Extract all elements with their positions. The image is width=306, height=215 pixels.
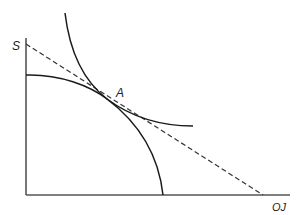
price-line <box>26 44 263 195</box>
x-axis-label: OJ <box>272 201 287 213</box>
y-axis-label: S <box>12 39 20 53</box>
diagram-canvas: S A OJ <box>0 0 306 215</box>
tangency-point-label: A <box>115 86 124 100</box>
production-possibility-frontier <box>26 75 163 195</box>
